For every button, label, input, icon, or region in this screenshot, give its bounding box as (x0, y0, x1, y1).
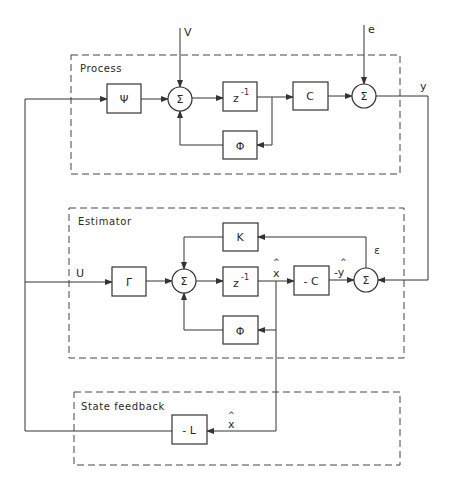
x-hat-caret: ^ (273, 258, 280, 267)
x-hat-label: x (273, 267, 280, 280)
estimator-sum-symbol: Σ (181, 275, 188, 288)
epsilon-label: ε (374, 244, 380, 257)
process-sum-symbol: Σ (177, 93, 184, 106)
error-sum-symbol: Σ (363, 274, 370, 287)
process-delay-z: z (233, 92, 239, 105)
output-sum-symbol: Σ (361, 90, 368, 103)
process-label: Process (80, 63, 122, 74)
minus-c-symbol: - C (303, 275, 318, 288)
xhat-to-phi-wire (258, 281, 276, 330)
process-phi-symbol: Φ (236, 140, 245, 153)
estimator-phi-symbol: Φ (236, 325, 245, 338)
c-symbol: C (306, 90, 314, 103)
state-to-phi-wire (257, 97, 272, 145)
minus-l-symbol: - L (182, 424, 196, 437)
k-symbol: K (236, 231, 244, 244)
u-label: U (76, 267, 84, 280)
gamma-symbol: Γ (126, 276, 133, 289)
y-output-label: y (420, 80, 427, 93)
e-input-label: e (368, 23, 375, 36)
estimator-delay-exponent: -1 (241, 273, 249, 282)
y-output-wire (376, 96, 428, 280)
estimator-label: Estimator (78, 216, 132, 227)
y-hat-label: -y (334, 266, 345, 279)
k-to-sum-wire (184, 237, 223, 269)
xhat-to-minus-l-wire (207, 330, 276, 431)
process-delay-block (223, 82, 257, 111)
est-phi-to-sum-wire (184, 293, 223, 330)
v-input-label: V (184, 26, 192, 39)
x-hat-fb-label: x (228, 418, 235, 431)
block-diagram: Process Estimator State feedback V e Ψ Σ… (0, 0, 450, 484)
process-delay-exponent: -1 (241, 88, 249, 97)
estimator-delay-z: z (233, 277, 239, 290)
psi-symbol: Ψ (120, 93, 129, 106)
state-feedback-label: State feedback (81, 401, 165, 412)
phi-to-sum-wire (180, 111, 223, 145)
